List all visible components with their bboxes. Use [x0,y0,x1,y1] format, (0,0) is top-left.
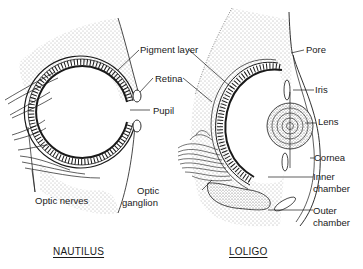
label-iris: Iris [315,85,328,95]
label-outer-chamber-line1: Outer [313,206,337,216]
label-inner-chamber-line2: chamber [313,184,350,194]
label-optic-ganglion-line2: ganglion [122,198,158,208]
label-optic-nerves: Optic nerves [35,196,88,206]
nautilus-eye-drawing [5,18,141,214]
title-loligo: LOLIGO [229,246,267,257]
label-lens: Lens [318,117,339,127]
label-outer-chamber-line2: chamber [313,218,350,228]
title-nautilus: NAUTILUS [53,246,104,257]
nautilus-pupil-lip-bottom [133,120,141,132]
label-cornea: Cornea [314,153,345,163]
nautilus-optic-nerves [5,72,100,178]
label-pupil: Pupil [153,106,174,116]
loligo-iris [284,80,290,100]
eye-comparison-diagram [0,0,363,269]
label-retina: Retina [155,74,182,84]
label-optic-ganglion-line1: Optic [137,186,159,196]
label-pore: Pore [306,45,326,55]
loligo-eye-drawing [178,8,320,226]
label-inner-chamber-line1: Inner [313,172,335,182]
label-pigment-layer: Pigment layer [140,45,198,55]
loligo-iris-lower [282,153,288,171]
